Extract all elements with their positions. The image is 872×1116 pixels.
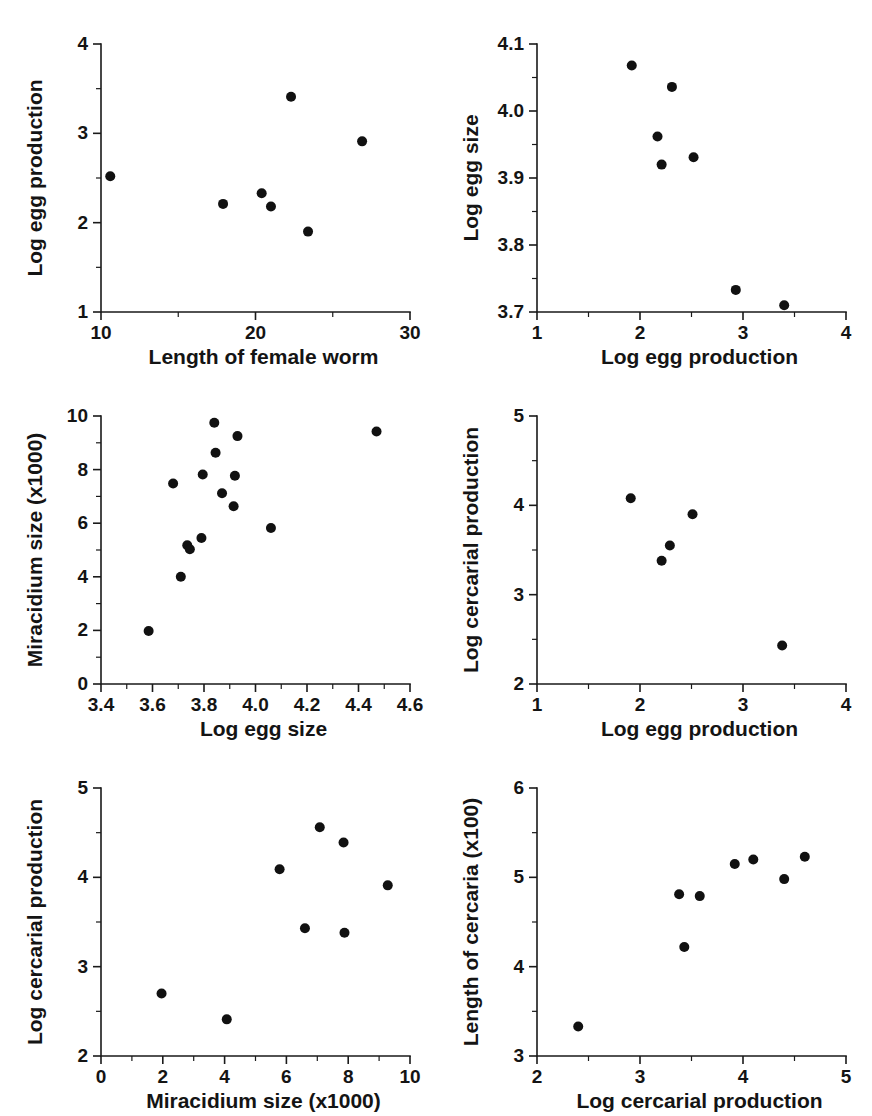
x-tick-label: 4.4 <box>345 694 372 715</box>
data-point <box>266 202 276 212</box>
data-points <box>105 92 367 237</box>
data-point <box>168 479 178 489</box>
y-tick-label: 3.9 <box>498 167 524 188</box>
data-point <box>665 541 675 551</box>
y-tick-label: 4 <box>77 33 88 54</box>
data-point <box>573 1022 583 1032</box>
data-point <box>275 864 285 874</box>
x-tick-label: 4 <box>219 1066 230 1087</box>
x-axis-title: Log cercarial production <box>576 1089 822 1112</box>
data-point <box>731 285 741 295</box>
x-tick-label: 4 <box>841 694 852 715</box>
x-tick-label: 10 <box>399 1066 420 1087</box>
data-point <box>198 469 208 479</box>
x-tick-label: 3.8 <box>191 694 217 715</box>
y-axis-ticks: 2345 <box>513 405 537 694</box>
axes <box>101 416 410 684</box>
y-axis-ticks: 2345 <box>77 777 101 1066</box>
data-points <box>144 418 382 636</box>
y-tick-label: 6 <box>77 512 88 533</box>
data-point <box>383 880 393 890</box>
data-point <box>185 544 195 554</box>
y-tick-label: 6 <box>513 777 524 798</box>
x-tick-label: 1 <box>532 694 543 715</box>
y-axis-ticks: 3.73.83.94.04.1 <box>498 33 537 322</box>
y-tick-label: 2 <box>77 1045 88 1066</box>
x-tick-label: 2 <box>635 694 646 715</box>
data-point <box>232 431 242 441</box>
data-point <box>222 1014 232 1024</box>
data-point <box>229 501 239 511</box>
data-points <box>627 60 789 310</box>
data-points <box>573 852 810 1032</box>
data-point <box>157 988 167 998</box>
data-point <box>339 928 349 938</box>
y-tick-label: 5 <box>513 866 524 887</box>
data-point <box>779 300 789 310</box>
scatter-panel-panel-d: 23451234Log egg productionLog cercarial … <box>436 372 872 744</box>
scatter-plot-figure: 1234102030Length of female wormLog egg p… <box>0 0 872 1116</box>
data-point <box>339 837 349 847</box>
data-point <box>303 227 313 237</box>
y-tick-label: 3 <box>77 122 88 143</box>
x-axis-title: Log egg production <box>601 345 798 368</box>
data-point <box>626 493 636 503</box>
y-tick-label: 3.7 <box>498 301 524 322</box>
x-tick-label: 2 <box>158 1066 169 1087</box>
data-point <box>209 418 219 428</box>
scatter-panel-panel-f: 34562345Log cercarial productionLength o… <box>436 744 872 1116</box>
x-tick-label: 10 <box>90 322 111 343</box>
data-point <box>286 92 296 102</box>
data-point <box>777 641 787 651</box>
x-tick-label: 6 <box>281 1066 292 1087</box>
data-point <box>357 136 367 146</box>
data-point <box>257 188 267 198</box>
x-axis-title: Length of female worm <box>149 345 379 368</box>
x-tick-label: 4 <box>738 1066 749 1087</box>
y-tick-label: 3 <box>513 584 524 605</box>
scatter-panel-panel-c: 02468103.43.63.84.04.24.44.6Log egg size… <box>0 372 436 744</box>
data-point <box>300 923 310 933</box>
x-tick-label: 5 <box>841 1066 852 1087</box>
axes <box>537 416 846 684</box>
x-axis-ticks: 102030 <box>90 312 420 343</box>
x-tick-label: 0 <box>96 1066 107 1087</box>
data-point <box>218 199 228 209</box>
scatter-panel-panel-e: 23450246810Miracidium size (x1000)Log ce… <box>0 744 436 1116</box>
y-axis-ticks: 3456 <box>513 777 537 1066</box>
data-point <box>674 889 684 899</box>
data-point <box>196 533 206 543</box>
y-axis-ticks: 1234 <box>77 33 101 322</box>
x-axis-title: Miracidium size (x1000) <box>146 1089 381 1112</box>
x-tick-label: 2 <box>635 322 646 343</box>
y-axis-title: Log cercarial production <box>23 799 46 1045</box>
y-axis-title: Log cercarial production <box>459 427 482 673</box>
scatter-panel-panel-b: 3.73.83.94.04.11234Log egg productionLog… <box>436 0 872 372</box>
data-points <box>626 493 787 650</box>
x-tick-label: 4.0 <box>242 694 268 715</box>
y-axis-title: Miracidium size (x1000) <box>23 433 46 668</box>
x-tick-label: 3 <box>738 694 749 715</box>
y-tick-label: 4.1 <box>498 33 525 54</box>
data-point <box>144 626 154 636</box>
data-point <box>105 171 115 181</box>
x-tick-label: 2 <box>532 1066 543 1087</box>
y-tick-label: 1 <box>77 301 88 322</box>
x-axis-title: Log egg production <box>601 717 798 740</box>
y-tick-label: 2 <box>77 212 88 233</box>
data-point <box>688 509 698 519</box>
data-point <box>748 854 758 864</box>
data-point <box>800 852 810 862</box>
data-point <box>695 891 705 901</box>
data-point <box>730 859 740 869</box>
y-tick-label: 3 <box>513 1045 524 1066</box>
y-tick-label: 2 <box>77 619 88 640</box>
y-tick-label: 5 <box>513 405 524 426</box>
axes <box>101 788 410 1056</box>
x-axis-ticks: 1234 <box>532 312 852 343</box>
y-tick-label: 4 <box>513 494 524 515</box>
x-tick-label: 3.4 <box>88 694 115 715</box>
y-axis-title: Length of cercaria (x100) <box>459 798 482 1047</box>
data-point <box>266 523 276 533</box>
x-tick-label: 4.2 <box>294 694 320 715</box>
